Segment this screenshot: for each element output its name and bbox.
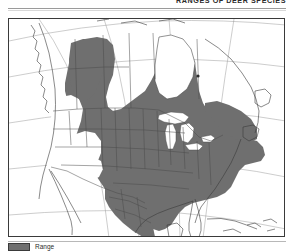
title-divider-shadow <box>8 10 286 11</box>
map-frame[interactable] <box>8 18 285 237</box>
legend-label-range: Range <box>35 243 54 251</box>
map-legend: Range <box>8 243 286 251</box>
legend-divider <box>8 241 286 242</box>
title-bar: RANGES OF DEER SPECIES <box>0 0 295 6</box>
map-point-marker <box>196 74 199 77</box>
page-title: RANGES OF DEER SPECIES <box>176 0 286 5</box>
legend-swatch-range <box>8 243 30 251</box>
title-divider <box>8 8 286 9</box>
north-america-map[interactable] <box>9 19 285 237</box>
